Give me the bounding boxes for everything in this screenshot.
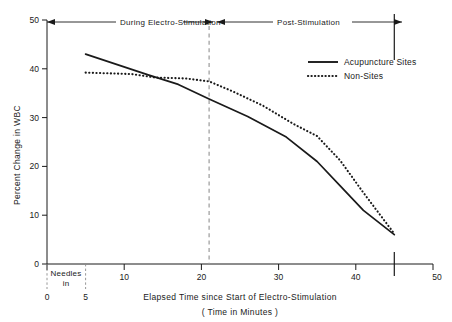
y-axis: 50 40 30 20 10 0 Percent Change in WBC [12,15,47,269]
needles-in-label-line2: in [63,279,70,288]
x-tick-label-20: 20 [197,272,207,282]
x-tick-label-40: 40 [351,272,361,282]
series-acupuncture-sites [86,54,395,235]
annotation-label-post: Post-Stimulation [277,18,340,27]
x-axis: 10 20 30 40 50 Elapsed Time since Start … [47,264,442,317]
x-axis-title: Elapsed Time since Start of Electro-Stim… [143,292,337,302]
legend-label-non-sites: Non-Sites [344,71,383,81]
arrow-right-icon [394,19,402,25]
y-tick-label-30: 30 [30,113,40,123]
needles-tick-label-5: 5 [83,292,88,302]
series-non-sites [86,73,395,234]
needles-tick-label-0: 0 [45,292,50,302]
needles-in-label-line1: Needles [51,269,82,278]
annotation-needles-in: Needles in 0 5 [45,264,89,302]
legend-label-acupuncture-sites: Acupuncture Sites [344,57,416,67]
x-tick-label-50: 50 [432,272,442,282]
y-tick-label-20: 20 [30,161,40,171]
y-tick-label-10: 10 [30,210,40,220]
x-tick-label-10: 10 [119,272,129,282]
annotation-during-electro-stimulation: During Electro-Stimulation [47,18,221,27]
chart-figure: During Electro-Stimulation Post-Stimulat… [0,0,452,322]
x-axis-subtitle: ( Time in Minutes ) [202,307,279,317]
y-axis-title: Percent Change in WBC [12,105,22,205]
annotation-post-stimulation: Post-Stimulation [217,18,402,27]
y-tick-label-50: 50 [30,15,40,25]
percent-change-wbc-line-chart: During Electro-Stimulation Post-Stimulat… [0,0,452,322]
x-tick-label-30: 30 [274,272,284,282]
y-tick-label-40: 40 [30,64,40,74]
arrow-left-icon [47,19,55,25]
chart-legend: Acupuncture Sites Non-Sites [308,57,416,81]
y-tick-label-0: 0 [34,259,39,269]
